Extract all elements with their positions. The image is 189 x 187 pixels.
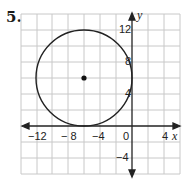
x-tick-label: −4 [92,130,105,142]
x-tick-label: −12 [28,130,47,142]
center-point [81,75,86,80]
x-axis [22,123,180,129]
y-axis-label: y [136,8,143,22]
x-axis-label: x [171,129,178,143]
y-tick-label: 4 [125,87,131,99]
grid [21,14,180,174]
x-tick-label: 0 [123,130,129,142]
y-tick-label: −4 [116,151,129,163]
x-tick-label: − 8 [61,130,77,142]
y-tick-label: 12 [119,23,131,35]
x-tick-label: 4 [162,130,168,142]
coordinate-graph: y x −12 − 8 −4 0 4 12 8 4 −4 [0,0,189,187]
y-tick-label: 8 [125,55,131,67]
